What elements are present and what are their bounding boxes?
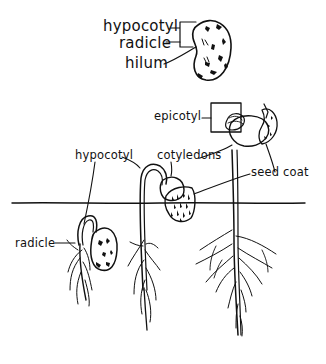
label-seed-radicle: radicle [119,36,171,51]
label-hypocotyl: hypocotyl [75,150,133,162]
germination-diagram: hypocotyl radicle hilum epicotyl hypocot… [0,0,326,364]
label-radicle: radicle [15,238,55,250]
soil-line [12,203,305,204]
seedling-stage-3 [196,103,277,336]
seedling-stage-1 [67,216,117,306]
stage-leader-lines [55,118,275,243]
seedling-stage-2 [128,164,195,330]
label-cotyledons: cotyledons [157,150,222,162]
seed-illustration [193,21,231,81]
label-epicotyl: epicotyl [154,111,201,123]
label-seed-hypocotyl: hypocotyl [103,19,178,34]
label-seed-hilum: hilum [125,56,168,71]
label-seed-coat: seed coat [251,167,309,179]
